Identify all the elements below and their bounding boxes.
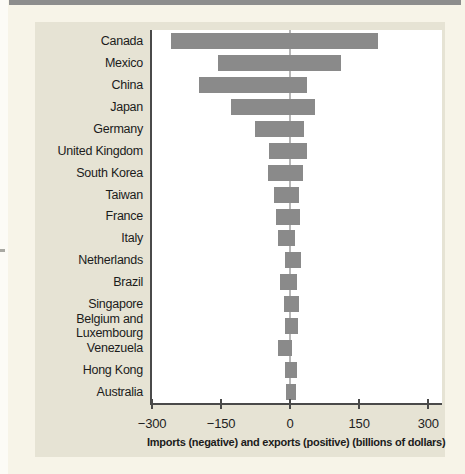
category-label: Belgium and Luxembourg [20,315,143,337]
category-label: China [20,74,143,96]
x-axis-tick-label: 150 [331,416,387,431]
trade-bar [286,384,296,400]
trade-bar [171,33,379,49]
category-label: Mexico [20,52,143,74]
figure-panel: −300−1500150300 Imports (negative) and e… [35,22,445,457]
x-axis-tick-label: 300 [400,416,456,431]
category-label: Netherlands [20,249,143,271]
x-axis-tick [220,399,222,409]
trade-bar [255,121,305,137]
x-axis-tick-label: −300 [124,416,180,431]
x-axis-tick [151,399,153,409]
category-label: France [20,206,143,228]
x-axis-label: Imports (negative) and exports (positive… [147,436,445,448]
trade-bar [269,143,307,159]
trade-bar [285,362,297,378]
category-label: Taiwan [20,184,143,206]
trade-bar [278,340,292,356]
category-label: United Kingdom [20,140,143,162]
trade-bar [274,187,299,203]
x-axis-tick-label: −150 [193,416,249,431]
category-label: South Korea [20,162,143,184]
category-label: Japan [20,96,143,118]
category-label: Italy [20,227,143,249]
trade-bar [284,296,300,312]
trade-bar [268,165,302,181]
x-axis-tick [427,399,429,409]
trade-bar [199,77,306,93]
trade-bar [218,55,341,71]
category-label: Canada [20,30,143,52]
page-top-rule [9,0,461,5]
margin-mark [0,249,5,252]
x-axis-tick-label: 0 [262,416,318,431]
category-label: Australia [20,381,143,403]
trade-bar [278,230,295,246]
trade-bar [285,252,302,268]
category-label: Brazil [20,271,143,293]
trade-bar [276,209,300,225]
plot-area: −300−1500150300 [150,30,442,405]
x-axis-tick [358,399,360,409]
category-label: Germany [20,118,143,140]
trade-bar [231,99,315,115]
category-label: Venezuela [20,337,143,359]
trade-bar [280,274,297,290]
page-left-margin [0,0,8,474]
x-axis-tick [289,399,291,409]
trade-bar [285,318,298,334]
category-label: Hong Kong [20,359,143,381]
